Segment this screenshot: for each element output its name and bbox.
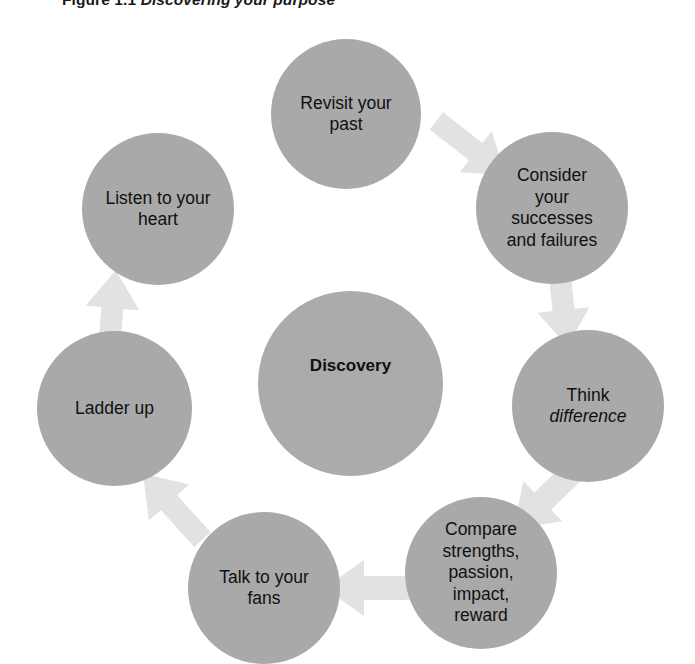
node-discovery-label: Discovery [304, 355, 397, 377]
node-ladder-up[interactable]: Ladder up [37, 331, 192, 486]
node-revisit-your-past[interactable]: Revisit your past [271, 39, 421, 189]
figure-container: Figure 1.1 Discovering your purpose [0, 0, 695, 664]
cycle-diagram: Discovery Revisit your past Consider you… [0, 0, 695, 664]
node-talk-to-your-fans[interactable]: Talk to your fans [188, 512, 340, 664]
node-talk-to-your-fans-label: Talk to your fans [213, 567, 314, 610]
node-consider-successes-failures[interactable]: Consider your successes and failures [476, 132, 628, 284]
node-discovery[interactable]: Discovery [258, 291, 443, 476]
node-listen-to-your-heart[interactable]: Listen to your heart [82, 133, 234, 285]
node-revisit-your-past-label: Revisit your past [294, 93, 397, 136]
node-compare-strengths-label: Compare strengths, passion, impact, rewa… [437, 519, 526, 627]
node-ladder-up-label: Ladder up [69, 398, 160, 420]
node-think-difference[interactable]: Thinkdifference [512, 330, 664, 482]
node-compare-strengths[interactable]: Compare strengths, passion, impact, rewa… [405, 497, 557, 649]
node-consider-successes-failures-label: Consider your successes and failures [501, 165, 603, 251]
node-think-difference-label: Thinkdifference [544, 385, 633, 428]
node-listen-to-your-heart-label: Listen to your heart [99, 188, 216, 231]
